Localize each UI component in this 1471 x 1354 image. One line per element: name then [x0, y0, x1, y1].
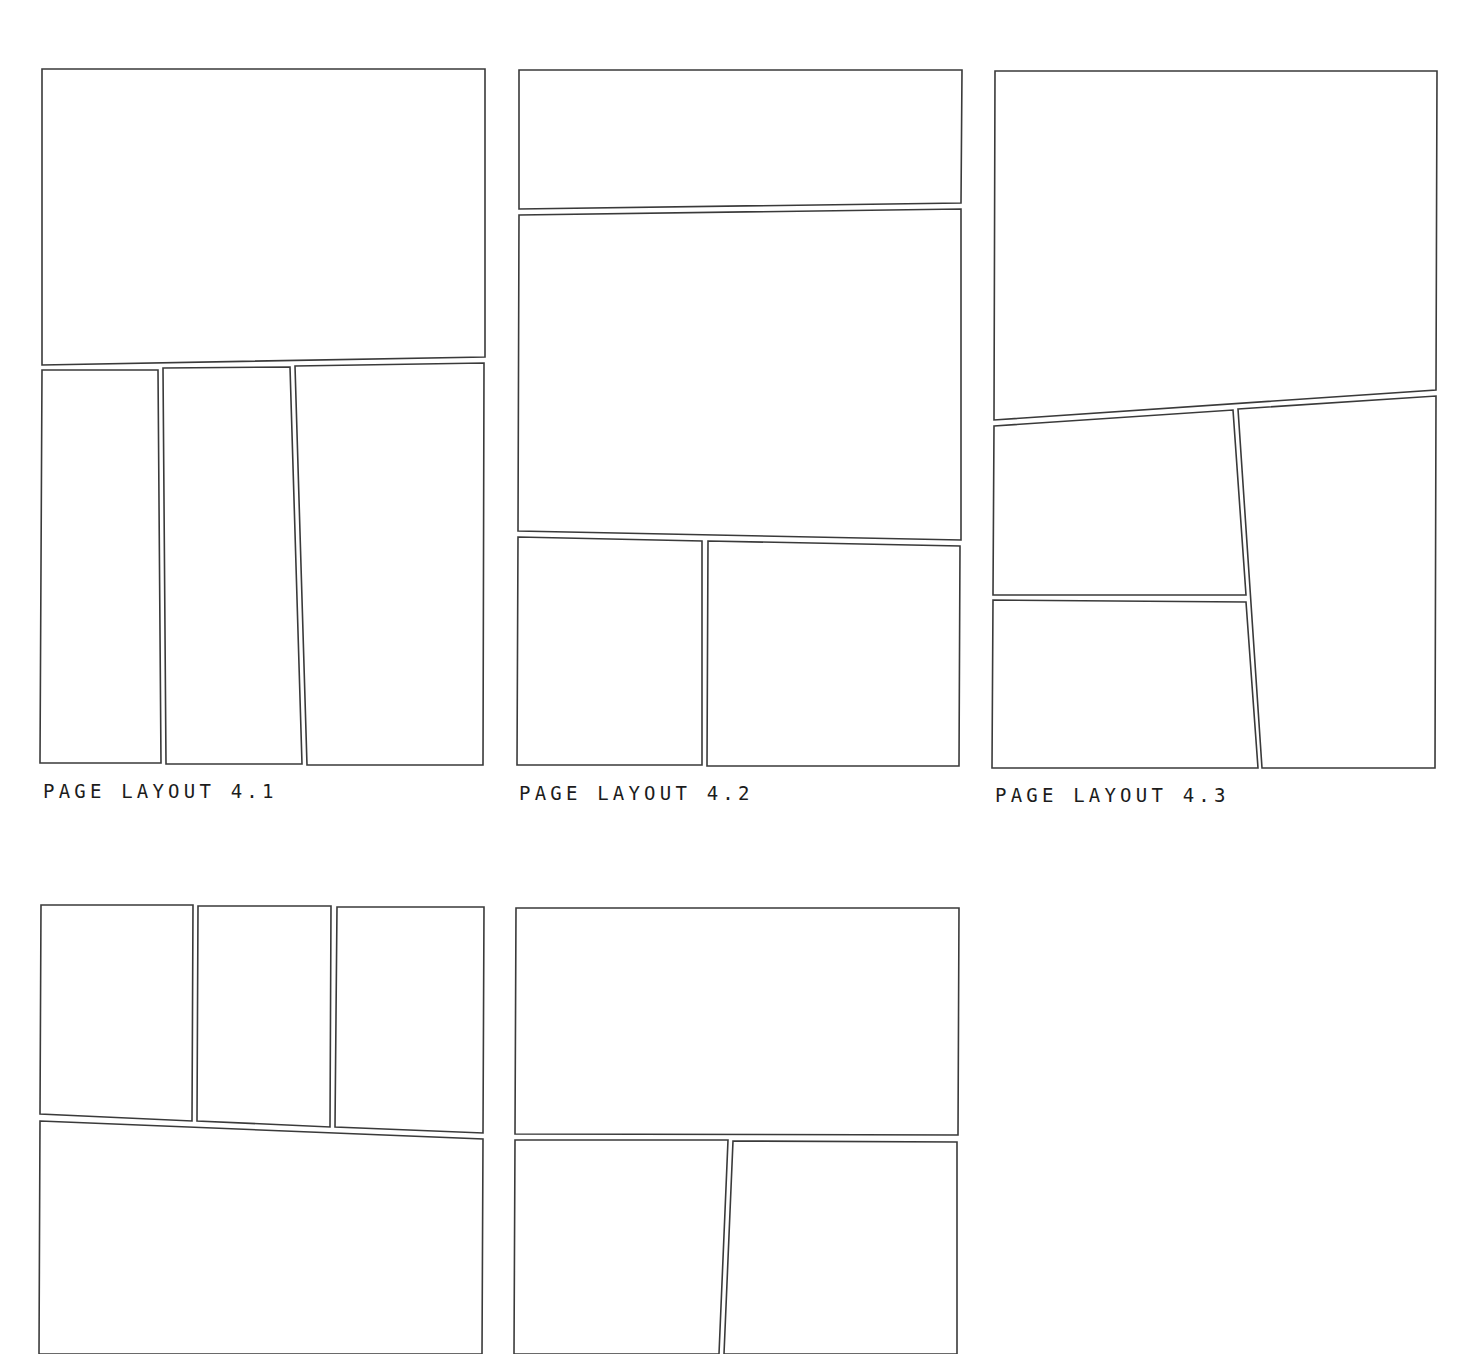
panel-3 — [724, 1141, 957, 1354]
panel-2 — [40, 370, 161, 763]
panel-1 — [519, 70, 962, 209]
layout-4-5 — [514, 908, 959, 1354]
panel-1 — [40, 905, 193, 1121]
layout-4-1 — [40, 69, 485, 765]
panel-4 — [992, 600, 1258, 768]
panel-1 — [515, 908, 959, 1135]
panel-2 — [518, 209, 961, 540]
panel-2 — [197, 906, 331, 1127]
panel-1 — [994, 71, 1437, 420]
caption-page-layout-4-1: PAGE LAYOUT 4.1 — [43, 780, 278, 802]
panel-4 — [39, 1121, 483, 1354]
panel-2 — [993, 410, 1246, 595]
page-layout-sheet: PAGE LAYOUT 4.1 PAGE LAYOUT 4.2 PAGE LAY… — [0, 0, 1471, 1354]
layout-4-2 — [517, 70, 962, 766]
panel-3 — [335, 907, 484, 1133]
panel-1 — [42, 69, 485, 365]
caption-page-layout-4-3: PAGE LAYOUT 4.3 — [995, 784, 1230, 806]
panel-3 — [517, 537, 702, 765]
panel-3 — [1238, 396, 1436, 768]
layout-4-3 — [992, 71, 1437, 768]
panel-drawings — [0, 0, 1471, 1354]
layout-4-4 — [39, 905, 484, 1354]
panel-4 — [707, 541, 960, 766]
panel-4 — [295, 363, 484, 765]
caption-page-layout-4-2: PAGE LAYOUT 4.2 — [519, 782, 754, 804]
panel-3 — [163, 367, 302, 764]
panel-2 — [514, 1140, 728, 1354]
